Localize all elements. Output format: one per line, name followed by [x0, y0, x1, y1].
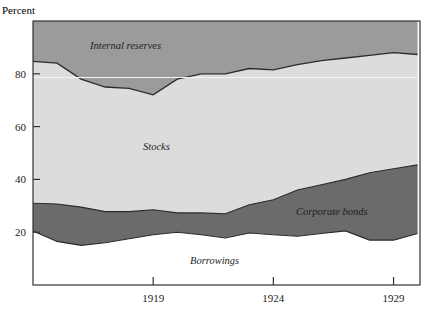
y-axis-title: Percent [2, 4, 35, 16]
y-tick-label: 40 [15, 173, 27, 185]
y-tick-label: 20 [15, 226, 27, 238]
x-tick-label: 1924 [262, 292, 285, 304]
x-tick-label: 1919 [142, 292, 165, 304]
x-tick-label: 1929 [383, 292, 406, 304]
label-borrowings: Borrowings [190, 255, 239, 266]
plot-area [33, 21, 419, 285]
y-tick-label: 80 [15, 68, 27, 80]
stacked-area-chart: Percent 80604020 191919241929 Internal r… [0, 0, 429, 314]
label-stocks: Stocks [143, 141, 170, 152]
label-internal-reserves: Internal reserves [89, 40, 161, 51]
y-tick-label: 60 [15, 121, 27, 133]
label-corporate-bonds: Corporate bonds [296, 206, 367, 217]
